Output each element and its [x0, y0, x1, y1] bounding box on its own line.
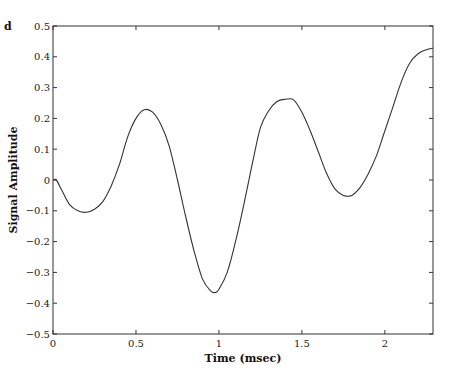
y-tick-label: −0.1 [26, 205, 50, 216]
y-tick-label: −0.2 [26, 236, 50, 247]
y-tick-label: 0.3 [34, 82, 50, 93]
signal-line [53, 48, 433, 292]
x-tick-label: 0.5 [128, 338, 144, 349]
panel-label: d [4, 20, 12, 33]
x-tick-label: 0 [50, 338, 56, 349]
x-tick-label: 1.5 [294, 338, 310, 349]
plot-frame [53, 26, 433, 334]
x-axis-ticks: 00.511.52 [50, 26, 388, 349]
line-chart: d 0.50.40.30.20.10−0.1−0.2−0.3−0.4−0.5 0… [0, 0, 449, 378]
x-axis-title: Time (msec) [205, 352, 282, 365]
y-tick-label: 0.2 [34, 113, 50, 124]
y-tick-label: 0 [44, 175, 50, 186]
y-axis-title: Signal Amplitude [7, 127, 20, 234]
x-tick-label: 1 [216, 338, 222, 349]
y-tick-label: 0.5 [34, 21, 50, 32]
x-tick-label: 2 [382, 338, 388, 349]
y-tick-label: −0.3 [26, 267, 50, 278]
y-tick-label: −0.5 [26, 329, 50, 340]
y-tick-label: −0.4 [26, 298, 50, 309]
y-tick-label: 0.4 [34, 51, 50, 62]
y-axis-ticks: 0.50.40.30.20.10−0.1−0.2−0.3−0.4−0.5 [26, 21, 433, 340]
y-tick-label: 0.1 [34, 144, 50, 155]
